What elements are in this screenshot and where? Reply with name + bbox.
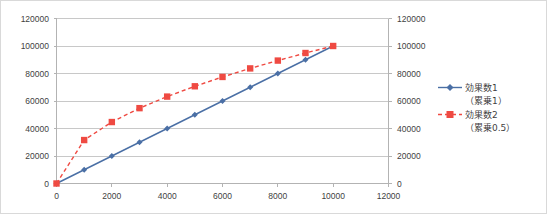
y-axis-right-labels: 120000 100000 80000 60000 40000 20000 0 (397, 14, 426, 189)
data-point-square[interactable] (219, 74, 225, 80)
legend-label-series2-line2: （累乗0.5） (465, 122, 515, 133)
chart-plot: 120000 100000 80000 60000 40000 20000 0 … (1, 1, 547, 214)
legend-marker-diamond-icon (447, 84, 454, 91)
data-point-square[interactable] (81, 137, 87, 143)
y-tick-label: 0 (44, 179, 49, 189)
y2-tick-label: 80000 (397, 69, 421, 79)
y-tick-label: 40000 (25, 124, 49, 134)
legend-label-series1-line2: （累乗1） (465, 95, 507, 106)
data-point-square[interactable] (53, 180, 59, 186)
legend-label-series1-line1: 効果数1 (465, 82, 498, 93)
legend-marker-square-icon (447, 111, 454, 118)
data-point-square[interactable] (302, 50, 308, 56)
data-point-square[interactable] (109, 119, 115, 125)
data-point-square[interactable] (247, 65, 253, 71)
x-tick-label: 8000 (268, 191, 287, 201)
y-tick-label: 20000 (25, 151, 49, 161)
chart-container: 120000 100000 80000 60000 40000 20000 0 … (0, 0, 547, 214)
y2-tick-label: 0 (397, 179, 402, 189)
y2-tick-label: 40000 (397, 124, 421, 134)
y2-tick-label: 60000 (397, 96, 421, 106)
legend-entry-series1[interactable]: 効果数1 （累乗1） (438, 82, 507, 106)
y-tick-label: 60000 (25, 96, 49, 106)
y-tick-label: 80000 (25, 69, 49, 79)
x-tick-label: 4000 (158, 191, 177, 201)
y-tick-label: 120000 (21, 14, 50, 24)
x-tick-label: 6000 (213, 191, 232, 201)
chart-legend: 効果数1 （累乗1） 効果数2 （累乗0.5） (438, 82, 515, 133)
y-tick-label: 100000 (21, 41, 50, 51)
y2-tick-label: 100000 (397, 41, 426, 51)
x-tick-label: 2000 (102, 191, 121, 201)
data-point-square[interactable] (275, 57, 281, 63)
data-point-square[interactable] (136, 105, 142, 111)
legend-label-series2-line1: 効果数2 (465, 109, 498, 120)
x-axis-labels: 0 2000 4000 6000 8000 10000 12000 (54, 191, 400, 201)
legend-entry-series2[interactable]: 効果数2 （累乗0.5） (438, 109, 515, 133)
data-point-square[interactable] (192, 83, 198, 89)
y2-tick-label: 120000 (397, 14, 426, 24)
data-point-square[interactable] (164, 93, 170, 99)
x-tick-label: 0 (54, 191, 59, 201)
x-tick-label: 10000 (321, 191, 345, 201)
x-tick-label: 12000 (377, 191, 401, 201)
y-axis-left-labels: 120000 100000 80000 60000 40000 20000 0 (21, 14, 50, 189)
data-point-square[interactable] (330, 43, 336, 49)
y2-tick-label: 20000 (397, 151, 421, 161)
